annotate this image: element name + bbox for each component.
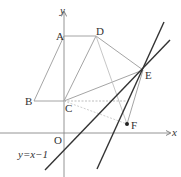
edge-CE xyxy=(64,70,143,101)
x-axis-label: x xyxy=(171,126,177,138)
point-D-label: D xyxy=(96,25,104,37)
line-equation-label: y=x−1 xyxy=(17,148,48,160)
point-B-label: B xyxy=(25,95,32,107)
figure-edges xyxy=(34,36,143,124)
origin-label: O xyxy=(54,134,62,146)
edge-AB xyxy=(34,36,64,101)
edge-CF xyxy=(64,101,127,124)
edge-DF xyxy=(96,36,127,124)
point-A-label: A xyxy=(56,30,64,42)
geometry-diagram: x y O A D B C E F y=x−1 xyxy=(0,0,181,177)
point-E-label: E xyxy=(145,69,152,81)
point-C-label: C xyxy=(65,102,72,114)
edge-DC xyxy=(64,36,96,101)
edge-DE xyxy=(96,36,143,70)
y-axis-label: y xyxy=(59,4,65,16)
point-F-label: F xyxy=(131,119,137,131)
point-F-dot xyxy=(125,122,129,126)
